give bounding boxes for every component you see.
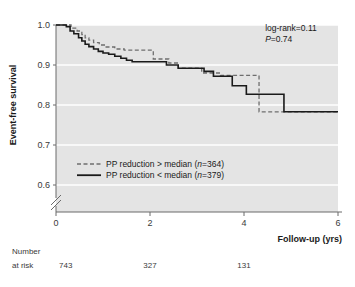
- x-axis-title: Follow-up (yrs): [278, 234, 343, 244]
- number-at-risk-value: 131: [237, 261, 251, 270]
- number-at-risk-block: Numberat risk743327131: [12, 247, 251, 270]
- x-axis-ticks: 0246: [53, 212, 340, 228]
- number-at-risk-label-2: at risk: [12, 261, 34, 270]
- x-tick-label: 6: [335, 218, 340, 228]
- legend-label-2: PP reduction < median (n=379): [106, 170, 224, 180]
- p-value-text: P=0.74: [265, 34, 292, 44]
- y-tick-label: 0.7: [37, 140, 50, 150]
- x-tick-label: 2: [147, 218, 152, 228]
- y-axis-ticks: 0.60.70.80.91.0: [37, 20, 56, 190]
- y-tick-label: 1.0: [37, 20, 50, 30]
- number-at-risk-value: 327: [143, 261, 157, 270]
- number-at-risk-label-1: Number: [12, 247, 41, 256]
- x-tick-label: 0: [53, 218, 58, 228]
- y-tick-label: 0.6: [37, 180, 50, 190]
- x-tick-label: 4: [241, 218, 246, 228]
- number-at-risk-value: 743: [59, 261, 73, 270]
- legend-label-1: PP reduction > median (n=364): [106, 159, 224, 169]
- y-axis-title: Event-free survival: [8, 65, 18, 146]
- y-tick-label: 0.9: [37, 60, 50, 70]
- plot-background: [56, 25, 338, 212]
- y-tick-label: 0.8: [37, 100, 50, 110]
- chart-canvas: 0.60.70.80.91.00246Event-free survivalFo…: [0, 0, 355, 287]
- logrank-text: log-rank=0.11: [265, 23, 317, 33]
- kaplan-meier-figure: 0.60.70.80.91.00246Event-free survivalFo…: [0, 0, 355, 287]
